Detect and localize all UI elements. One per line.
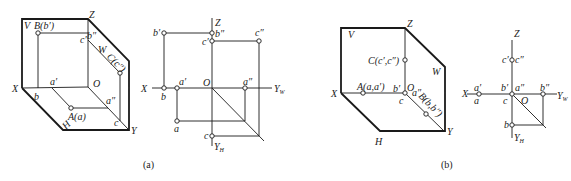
- label-z: Z: [215, 17, 221, 28]
- x-axis: [22, 87, 88, 88]
- point-c: [403, 58, 407, 62]
- label-w: W: [432, 66, 442, 77]
- label-a-prime: a′: [50, 76, 58, 87]
- label-z: Z: [89, 9, 95, 20]
- label-o: O: [203, 77, 210, 88]
- label-yw: YW: [274, 83, 286, 95]
- label-c-double: c″: [515, 54, 524, 65]
- label-b-double: b″: [540, 82, 550, 93]
- label-c: c: [399, 95, 404, 106]
- label-b-prime: b′: [153, 27, 161, 38]
- label-z: Z: [514, 28, 520, 39]
- label-point-a: A(a): [67, 111, 86, 123]
- figure-a-orthographic: Z b′ b″ c′ c″ X a′ O a″ YW b a c YH: [140, 17, 286, 153]
- point-origin: [510, 92, 514, 96]
- point-a: [69, 106, 73, 110]
- figure-b-pictorial: V Z C(c′,c″) W X A(a,a′) b′ O a″ c B(b,b…: [330, 18, 454, 147]
- point-b: [162, 86, 166, 90]
- label-v: V: [348, 29, 356, 40]
- label-b-double: b″: [215, 28, 225, 39]
- point-b: [424, 112, 428, 116]
- label-v: V: [24, 20, 32, 31]
- label-y: Y: [131, 125, 138, 136]
- point-b-prime: [162, 31, 166, 35]
- diagonal-45: [212, 88, 264, 141]
- label-c: c: [204, 130, 209, 141]
- point-b: [36, 31, 40, 35]
- figure-a-pictorial: V B(b′) Z c′ b″ W C(c″) X a′ O b a″ A(a)…: [11, 9, 138, 136]
- label-c-prime: c′: [502, 54, 509, 65]
- label-b-double: b″: [87, 30, 97, 41]
- label-c: c: [503, 95, 508, 106]
- point-b-double: [210, 31, 214, 35]
- label-a-double: a″: [515, 82, 525, 93]
- label-o: O: [93, 78, 100, 89]
- figure-b-orthographic: Z c′ c″ X a′ a b′ a″ c O b″ YW b YH: [461, 28, 569, 144]
- frame-outline: [341, 28, 445, 131]
- label-a: a: [474, 95, 479, 106]
- label-a-prime: a′: [179, 76, 187, 87]
- caption-a: (a): [143, 159, 154, 171]
- label-b: b: [161, 91, 166, 102]
- label-point-c: C(c″): [104, 51, 128, 75]
- label-a-double: a″: [106, 95, 116, 106]
- label-h: H: [374, 136, 383, 147]
- label-z: Z: [407, 18, 413, 29]
- label-point-c: C(c′,c″): [368, 55, 400, 67]
- label-w: W: [98, 44, 108, 55]
- point-c-double: [257, 39, 261, 43]
- label-x: X: [461, 88, 469, 99]
- label-point-b: B(b′): [34, 20, 55, 32]
- label-b-prime: b′: [501, 82, 509, 93]
- label-x: X: [330, 88, 338, 99]
- point-c-prime: [210, 39, 214, 43]
- label-point-b: B(b,b″): [416, 90, 446, 120]
- projection-diagram: V B(b′) Z c′ b″ W C(c″) X a′ O b a″ A(a)…: [0, 0, 571, 181]
- label-b: b: [504, 119, 509, 130]
- point-b: [510, 123, 514, 127]
- label-c-double: c″: [255, 27, 264, 38]
- point-c-prime: [510, 58, 514, 62]
- label-a: a: [174, 123, 179, 134]
- label-b-prime: b′: [393, 83, 401, 94]
- diagonal-45: [512, 94, 546, 128]
- label-a-prime: a′: [474, 82, 482, 93]
- label-point-a: A(a,a′): [356, 81, 385, 93]
- label-c-prime: c′: [202, 36, 209, 47]
- label-y: Y: [447, 126, 454, 137]
- label-c: c: [114, 117, 119, 128]
- label-yw: YW: [557, 90, 569, 102]
- label-o: O: [521, 95, 528, 106]
- label-x: X: [140, 83, 148, 94]
- label-b: b: [34, 91, 39, 102]
- point-c: [210, 134, 214, 138]
- a-proj-line-1: [52, 88, 71, 108]
- label-yh: YH: [514, 132, 525, 144]
- caption-b: (b): [441, 159, 453, 171]
- label-yh: YH: [214, 141, 225, 153]
- label-a-double: a″: [243, 76, 253, 87]
- label-x: X: [11, 83, 19, 94]
